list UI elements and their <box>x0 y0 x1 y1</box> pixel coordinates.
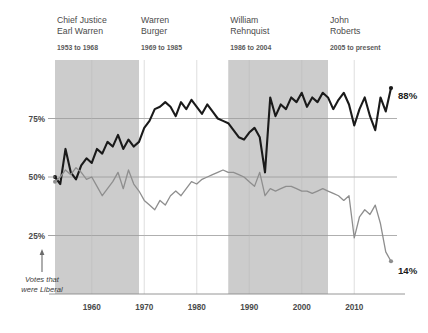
x-tick-label-1990: 1990 <box>240 303 259 312</box>
era-2-title-line1: Warren <box>141 15 169 25</box>
era-4-title-line1: John <box>330 15 349 25</box>
y-tick-label-50%: 50% <box>29 173 46 182</box>
x-tick-label-1980: 1980 <box>188 303 207 312</box>
x-tick-label-1970: 1970 <box>135 303 154 312</box>
x-tick-label-1960: 1960 <box>83 303 102 312</box>
era-2-title-line2: Burger <box>141 26 167 36</box>
supreme-court-votes-line-chart: Chief JusticeEarl Warren1953 to 1968Warr… <box>0 0 428 333</box>
era-1-years: 1953 to 1968 <box>57 44 98 51</box>
y-tick-label-75%: 75% <box>29 115 46 124</box>
chart-container: Chief JusticeEarl Warren1953 to 1968Warr… <box>0 0 428 333</box>
era-4-title-line2: Roberts <box>330 26 361 36</box>
annotation-text-line1: Votes that <box>25 275 60 284</box>
end-dot-unanimous-or-majority-black <box>389 86 393 90</box>
era-3-title-line2: Rehnquist <box>230 26 270 36</box>
era-1-title-line2: Earl Warren <box>57 26 103 36</box>
era-3-years: 1986 to 2004 <box>230 44 271 51</box>
era-4-years: 2005 to present <box>330 44 381 52</box>
annotation-text-line2: were Liberal <box>21 285 63 294</box>
era-2-years: 1969 to 1985 <box>141 44 182 51</box>
x-tick-label-2010: 2010 <box>345 303 364 312</box>
x-tick-label-2000: 2000 <box>293 303 312 312</box>
end-label-14pct: 14% <box>398 265 418 276</box>
era-1-title-line1: Chief Justice <box>57 15 107 25</box>
y-tick-label-25%: 25% <box>29 232 46 241</box>
era-3-title-line1: William <box>230 15 258 25</box>
end-dot-dissent-rate-gray <box>389 259 393 263</box>
start-dot-dissent-rate-gray <box>53 180 57 184</box>
end-label-88pct: 88% <box>398 90 418 101</box>
